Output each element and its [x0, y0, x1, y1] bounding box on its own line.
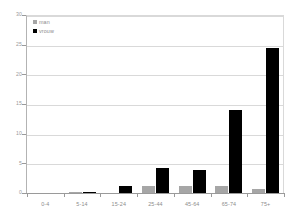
bar-man-45-64	[179, 186, 192, 193]
legend: manvrouw	[33, 18, 54, 36]
x-axis-tick-mark	[100, 193, 101, 197]
bar-group	[247, 15, 284, 193]
y-axis-tick-mark	[22, 104, 26, 105]
bar-vrouw-15-24	[119, 186, 132, 193]
x-axis-label-45-64: 45-64	[172, 201, 212, 207]
bar-group	[174, 15, 211, 193]
y-axis-tick-label: 30	[2, 12, 22, 17]
legend-swatch-icon	[33, 29, 37, 33]
legend-item-man: man	[33, 18, 54, 26]
x-axis-label-65-74: 65-74	[209, 201, 249, 207]
y-axis-tick-mark	[22, 193, 26, 194]
bar-vrouw-65-74	[229, 110, 242, 193]
bar-vrouw-25-44	[156, 168, 169, 194]
legend-item-vrouw: vrouw	[33, 27, 54, 35]
x-axis-tick-mark	[284, 193, 285, 197]
bar-man-5-14	[69, 192, 82, 193]
bars-layer	[27, 15, 284, 193]
x-axis-tick-mark	[174, 193, 175, 197]
y-axis-tick-mark	[22, 163, 26, 164]
x-axis-label-15-24: 15-24	[99, 201, 139, 207]
bar-vrouw-5-14	[83, 192, 96, 193]
x-axis-label-75+: 75+	[246, 201, 286, 207]
y-axis-tick-mark	[22, 15, 26, 16]
y-axis-tick-label: 5	[2, 161, 22, 166]
bar-group	[100, 15, 137, 193]
x-axis-label-25-44: 25-44	[136, 201, 176, 207]
bar-group	[64, 15, 101, 193]
y-axis-tick-mark	[22, 74, 26, 75]
x-axis-tick-mark	[27, 193, 28, 197]
x-axis-label-5-14: 5-14	[62, 201, 102, 207]
y-axis-tick-label: 0	[2, 190, 22, 195]
y-axis-tick-label: 10	[2, 131, 22, 136]
x-axis-tick-mark	[64, 193, 65, 197]
bar-man-65-74	[215, 186, 228, 193]
x-axis-tick-mark	[247, 193, 248, 197]
x-axis-label-0-4: 0-4	[25, 201, 65, 207]
x-axis-tick-mark	[137, 193, 138, 197]
legend-label: vrouw	[39, 28, 54, 34]
bar-group	[137, 15, 174, 193]
bar-man-75+	[252, 189, 265, 193]
bar-group	[211, 15, 248, 193]
bar-chart: 051015202530 0-45-1415-2425-4445-6465-74…	[0, 0, 293, 218]
legend-label: man	[39, 19, 50, 25]
bar-group	[27, 15, 64, 193]
y-axis-tick-mark	[22, 134, 26, 135]
x-axis-tick-mark	[211, 193, 212, 197]
y-axis-tick-mark	[22, 45, 26, 46]
bar-vrouw-45-64	[193, 170, 206, 193]
y-axis-tick-label: 20	[2, 72, 22, 77]
y-axis-tick-label: 15	[2, 101, 22, 106]
y-axis-tick-label: 25	[2, 42, 22, 47]
bar-man-25-44	[142, 186, 155, 193]
bar-vrouw-75+	[266, 48, 279, 193]
legend-swatch-icon	[33, 20, 37, 24]
